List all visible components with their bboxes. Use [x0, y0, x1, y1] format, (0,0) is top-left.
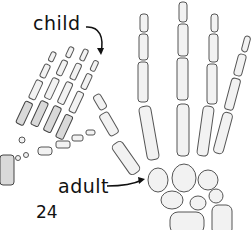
page-number: 24 [36, 202, 58, 222]
adult-hand-skeleton [93, 2, 251, 230]
hand-bones-illustration [0, 0, 251, 230]
child-hand-skeleton [0, 35, 101, 185]
child-arrowhead [97, 48, 104, 55]
adult-arrowhead [138, 177, 145, 184]
adult-arrow [107, 180, 142, 186]
child-label: child [33, 12, 81, 34]
adult-label: adult [58, 175, 109, 197]
